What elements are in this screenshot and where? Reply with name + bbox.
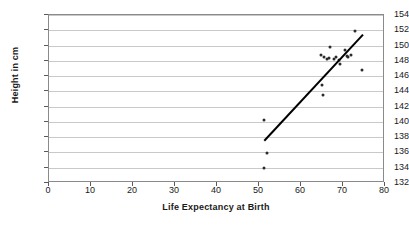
- x-tick-mark: [384, 182, 385, 186]
- y-tick-mark: [44, 167, 48, 168]
- y-tick-mark: [44, 151, 48, 152]
- y-tick-mark: [44, 14, 48, 15]
- x-tick-label: 70: [327, 186, 357, 195]
- x-tick-label: 80: [369, 186, 399, 195]
- x-tick-label: 20: [117, 186, 147, 195]
- scatter-chart: Height in cm Life Expectancy at Birth 13…: [0, 0, 409, 231]
- y-tick-mark: [44, 136, 48, 137]
- trendline: [48, 14, 384, 182]
- trendline-segment: [264, 35, 363, 141]
- y-tick-mark: [44, 45, 48, 46]
- x-tick-label: 40: [201, 186, 231, 195]
- x-tick-mark: [216, 182, 217, 186]
- y-tick-label: 146: [365, 71, 409, 80]
- y-tick-mark: [44, 60, 48, 61]
- y-tick-mark: [44, 106, 48, 107]
- y-tick-label: 154: [365, 10, 409, 19]
- y-tick-mark: [44, 90, 48, 91]
- y-tick-label: 152: [365, 25, 409, 34]
- y-tick-label: 138: [365, 132, 409, 141]
- x-tick-mark: [342, 182, 343, 186]
- y-tick-label: 134: [365, 163, 409, 172]
- y-tick-mark: [44, 75, 48, 76]
- x-tick-mark: [132, 182, 133, 186]
- y-axis-title: Height in cm: [10, 32, 20, 118]
- x-tick-mark: [90, 182, 91, 186]
- x-tick-label: 0: [33, 186, 63, 195]
- x-tick-label: 30: [159, 186, 189, 195]
- x-axis-title: Life Expectancy at Birth: [48, 202, 384, 212]
- y-tick-mark: [44, 29, 48, 30]
- x-tick-label: 10: [75, 186, 105, 195]
- y-tick-label: 144: [365, 86, 409, 95]
- y-tick-label: 140: [365, 117, 409, 126]
- x-tick-mark: [174, 182, 175, 186]
- x-tick-label: 50: [243, 186, 273, 195]
- y-tick-mark: [44, 121, 48, 122]
- x-tick-label: 60: [285, 186, 315, 195]
- y-tick-label: 136: [365, 147, 409, 156]
- x-tick-mark: [258, 182, 259, 186]
- y-tick-label: 142: [365, 102, 409, 111]
- x-tick-mark: [300, 182, 301, 186]
- y-tick-label: 148: [365, 56, 409, 65]
- y-tick-label: 150: [365, 41, 409, 50]
- x-tick-mark: [48, 182, 49, 186]
